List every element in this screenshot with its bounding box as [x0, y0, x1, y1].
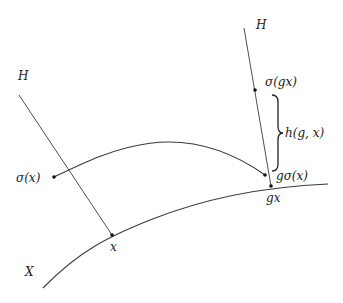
label-sigma-x: σ(x) [16, 171, 41, 185]
point-g-sigma-x [263, 173, 267, 177]
point-gx [269, 184, 273, 188]
section-arc [54, 142, 265, 177]
point-x [110, 233, 114, 237]
label-g-sigma-x: gσ(x) [276, 169, 308, 183]
label-h-gx: h(g, x) [285, 126, 324, 140]
label-H-left: H [17, 69, 29, 83]
label-H-right: H [255, 18, 267, 32]
point-sigma-gx [253, 88, 257, 92]
curly-brace-icon [272, 95, 283, 171]
label-gx: gx [266, 191, 281, 205]
fiber-bundle-diagram: H H σ(x) σ(gx) h(g, x) gσ(x) x gx X [0, 0, 343, 303]
fiber-line-right [244, 28, 271, 186]
label-sigma-gx: σ(gx) [265, 75, 297, 89]
point-sigma-x [52, 175, 56, 179]
base-space-curve-X [43, 184, 328, 288]
label-X: X [24, 265, 34, 279]
label-x: x [110, 240, 117, 254]
fiber-line-left [19, 95, 112, 235]
